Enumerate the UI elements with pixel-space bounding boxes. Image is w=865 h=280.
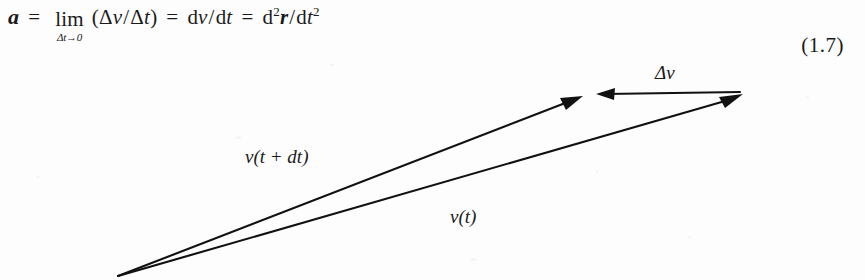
vector-diagram: Δv v(t + dt) v(t)	[0, 0, 865, 280]
vector-delta-v-shaft	[606, 92, 740, 94]
vector-v-t-plus-dt-shaft	[118, 100, 573, 276]
vector-delta-v-arrowhead	[596, 88, 615, 100]
label-v-t: v(t)	[450, 206, 476, 228]
vector-v-t-shaft	[118, 99, 732, 276]
vector-v-t-arrowhead	[719, 94, 743, 108]
label-delta-v: Δv	[654, 62, 675, 83]
vector-v-t-plus-dt-arrowhead	[560, 96, 583, 110]
vector-v-t	[118, 94, 743, 276]
label-v-t-plus-dt: v(t + dt)	[245, 146, 308, 168]
figure-page: a=limΔt→0(Δv/Δt)=dv/dt=d2r/dt2 (1.7) Δv …	[0, 0, 865, 280]
vector-delta-v	[596, 88, 740, 100]
vector-v-t-plus-dt	[118, 96, 583, 276]
